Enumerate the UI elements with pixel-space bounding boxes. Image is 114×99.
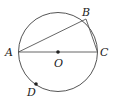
label-c: C [100,46,109,59]
label-o: O [54,57,63,70]
label-d: D [26,86,36,99]
label-b: B [81,6,90,19]
chord-bc [86,19,98,52]
center-dot-o [56,50,60,54]
label-a: A [4,46,13,59]
circle-diagram: A B C O D [0,0,114,99]
chord-ab [19,19,87,52]
